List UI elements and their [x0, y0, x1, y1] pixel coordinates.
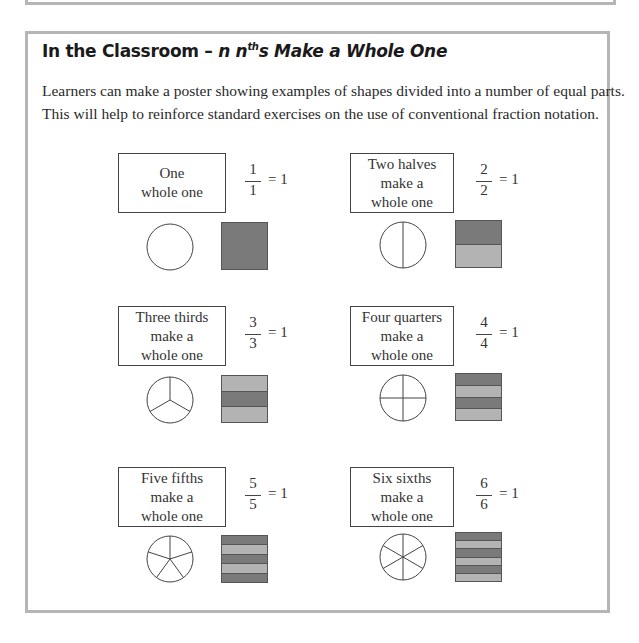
previous-box-frame [25, 0, 616, 5]
label-line: whole one [371, 507, 433, 526]
label-line: One [160, 164, 185, 183]
label-line: whole one [371, 193, 433, 212]
circle-thirds-icon [146, 376, 194, 424]
circle-sixths-icon [379, 533, 427, 581]
numerator: 5 [246, 475, 260, 492]
denominator: 3 [246, 335, 260, 352]
numerator: 4 [477, 314, 491, 331]
circle-fifths-icon [146, 535, 194, 583]
example-one-whole: One whole one 1 1 = 1 [118, 153, 318, 293]
numerator: 2 [477, 161, 491, 178]
label-line: Four quarters [362, 308, 442, 327]
equals-one: = 1 [499, 171, 519, 188]
label-line: make a [381, 327, 424, 346]
rect-halves-icon [455, 220, 502, 268]
equals-one: = 1 [268, 324, 288, 341]
equals-one: = 1 [268, 485, 288, 502]
denominator: 5 [246, 496, 260, 513]
rect-sixths-icon [455, 532, 502, 582]
circle-quarters-icon [379, 374, 427, 422]
label-line: make a [151, 327, 194, 346]
label-line: Five fifths [141, 469, 203, 488]
example-five-fifths: Five fifths make a whole one 5 5 = 1 [118, 467, 318, 607]
title-prefix: In the Classroom – [42, 41, 218, 61]
rect-whole-icon [221, 222, 268, 270]
label-line: whole one [141, 346, 203, 365]
rect-thirds-icon [221, 375, 268, 423]
denominator: 2 [477, 182, 491, 199]
section-title: In the Classroom – n nths Make a Whole O… [42, 41, 447, 61]
example-six-sixths: Six sixths make a whole one 6 6 = 1 [350, 467, 550, 607]
equals-one: = 1 [268, 171, 288, 188]
label-box: Six sixths make a whole one [350, 467, 454, 527]
label-line: make a [381, 174, 424, 193]
fraction: 2 2 = 1 [477, 161, 537, 203]
rect-fifths-icon [221, 535, 268, 583]
intro-paragraph: Learners can make a poster showing examp… [42, 79, 602, 125]
denominator: 4 [477, 335, 491, 352]
title-italic-n: n nths Make a Whole One [218, 41, 447, 61]
denominator: 1 [246, 182, 260, 199]
fraction: 4 4 = 1 [477, 314, 537, 356]
label-box: Four quarters make a whole one [350, 306, 454, 366]
numerator: 1 [246, 161, 260, 178]
label-box: Five fifths make a whole one [118, 467, 226, 527]
fraction: 6 6 = 1 [477, 475, 537, 517]
label-box: Two halves make a whole one [350, 153, 454, 213]
example-four-quarters: Four quarters make a whole one 4 4 = 1 [350, 306, 550, 446]
fraction: 1 1 = 1 [246, 161, 306, 203]
label-line: whole one [371, 346, 433, 365]
label-box: Three thirds make a whole one [118, 306, 226, 366]
label-line: Two halves [368, 155, 437, 174]
numerator: 3 [246, 314, 260, 331]
example-three-thirds: Three thirds make a whole one 3 3 = 1 [118, 306, 318, 446]
label-line: Three thirds [136, 308, 209, 327]
label-line: whole one [141, 507, 203, 526]
label-line: make a [381, 488, 424, 507]
equals-one: = 1 [499, 485, 519, 502]
circle-halves-icon [379, 221, 427, 269]
label-line: make a [151, 488, 194, 507]
fraction: 5 5 = 1 [246, 475, 306, 517]
denominator: 6 [477, 496, 491, 513]
numerator: 6 [477, 475, 491, 492]
fraction: 3 3 = 1 [246, 314, 306, 356]
label-line: Six sixths [373, 469, 432, 488]
paragraph-line: This will help to reinforce standard exe… [42, 102, 602, 125]
rect-quarters-icon [455, 373, 502, 421]
label-box: One whole one [118, 153, 226, 213]
example-two-halves: Two halves make a whole one 2 2 = 1 [350, 153, 550, 293]
label-line: whole one [141, 183, 203, 202]
equals-one: = 1 [499, 324, 519, 341]
circle-whole-icon [146, 223, 194, 271]
paragraph-line: Learners can make a poster showing examp… [42, 79, 602, 102]
